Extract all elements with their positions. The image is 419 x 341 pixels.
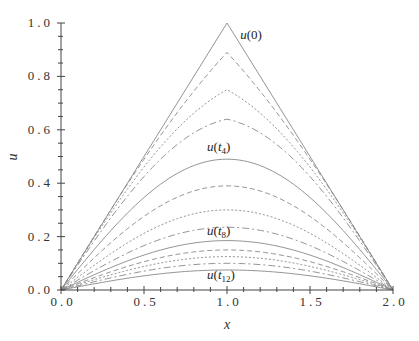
series-line-2 xyxy=(61,90,393,290)
curve-annotation: u(t4) xyxy=(207,139,230,156)
x-tick-label: 1.5 xyxy=(299,294,324,309)
x-tick-label: 0.5 xyxy=(133,294,158,309)
y-tick-label: 0.0 xyxy=(28,282,53,297)
x-tick-label: 2.0 xyxy=(382,294,407,309)
y-tick-label: 0.6 xyxy=(28,122,53,137)
x-axis-title: x xyxy=(223,317,231,332)
series-line-1 xyxy=(61,52,393,290)
curve-annotation: u(t12) xyxy=(207,267,235,284)
y-tick-label: 0.8 xyxy=(28,68,53,83)
chart: 0.00.51.01.52.00.00.20.40.60.81.0u(0)u(t… xyxy=(0,0,419,341)
y-tick-label: 1.0 xyxy=(28,15,53,30)
x-tick-label: 0.0 xyxy=(50,294,75,309)
curves-layer xyxy=(61,23,393,290)
y-tick-label: 0.2 xyxy=(28,229,53,244)
y-axis-title: u xyxy=(5,154,20,161)
y-tick-label: 0.4 xyxy=(28,175,53,190)
curve-annotation: u(0) xyxy=(240,27,262,42)
curve-annotation: u(t8) xyxy=(207,223,230,240)
labels-layer: 0.00.51.01.52.00.00.20.40.60.81.0u(0)u(t… xyxy=(28,15,408,309)
x-tick-label: 1.0 xyxy=(216,294,241,309)
